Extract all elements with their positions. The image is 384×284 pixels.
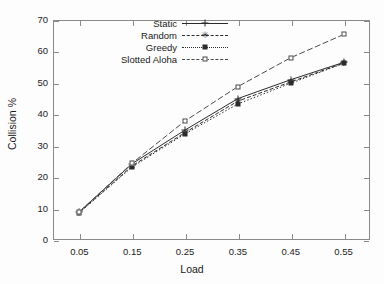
legend-label: Random [100,30,182,41]
legend-label: Greedy [100,42,182,53]
x-axis-title: Load [0,263,384,275]
legend-line-sample [182,59,228,60]
legend-line-sample [182,47,228,48]
legend-entry-greedy[interactable]: Greedy [100,42,228,53]
chart-legend: StaticRandom✳GreedySlotted Aloha [100,18,228,66]
chart-figure: 010203040506070 0.050.150.250.350.450.55… [0,0,384,284]
legend-line-sample [182,23,228,24]
legend-label: Slotted Aloha [100,54,182,65]
legend-key-swatch [182,18,228,29]
legend-entry-slotted-aloha[interactable]: Slotted Aloha [100,54,228,65]
series-line-random [79,63,343,212]
legend-line-sample [182,35,228,36]
legend-label: Static [100,18,182,29]
series-line-static [79,62,343,211]
y-axis-title: Collision % [6,84,18,164]
legend-key-swatch [182,54,228,65]
legend-key-swatch [182,42,228,53]
series-line-greedy [79,63,343,212]
legend-entry-random[interactable]: Random✳ [100,30,228,41]
legend-key-swatch: ✳ [182,30,228,41]
legend-entry-static[interactable]: Static [100,18,228,29]
